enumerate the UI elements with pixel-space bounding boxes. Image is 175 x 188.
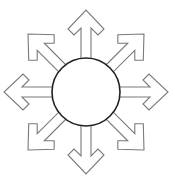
arrow-right-icon [116,74,168,110]
radial-arrows-diagram [0,0,175,188]
arrow-left-icon [4,74,56,110]
arrow-down-icon [68,122,104,174]
arrow-up-icon [68,10,104,62]
center-circle [52,58,120,126]
